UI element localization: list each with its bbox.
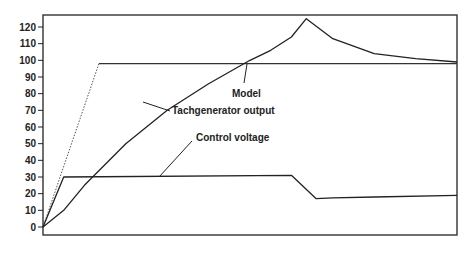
series-group [43, 19, 457, 227]
label-tachgenerator-output: Tachgenerator output [172, 105, 275, 116]
label-control-voltage: Control voltage [196, 132, 270, 143]
y-tick-label: 10 [25, 205, 37, 216]
line-chart: 0102030405060708090100110120 Model Tachg… [0, 0, 474, 269]
y-tick-label: 100 [19, 55, 36, 66]
y-tick-label: 40 [25, 155, 37, 166]
annotation-model: Model [232, 64, 261, 99]
y-tick-label: 80 [25, 88, 37, 99]
y-tick-label: 120 [19, 22, 36, 33]
y-tick-label: 20 [25, 188, 37, 199]
y-tick-label: 110 [20, 38, 37, 49]
y-tick-label: 70 [25, 105, 37, 116]
y-tick-label: 50 [25, 138, 37, 149]
y-tick-label: 90 [25, 72, 37, 83]
series-tachgenerator-output [43, 19, 457, 227]
y-axis: 0102030405060708090100110120 [19, 22, 43, 233]
plot-frame [43, 15, 457, 235]
y-tick-label: 30 [25, 172, 37, 183]
annotation-control: Control voltage [159, 132, 270, 177]
series-control-voltage [43, 175, 457, 227]
label-model: Model [232, 88, 261, 99]
y-tick-label: 60 [25, 122, 37, 133]
y-tick-label: 0 [30, 222, 36, 233]
